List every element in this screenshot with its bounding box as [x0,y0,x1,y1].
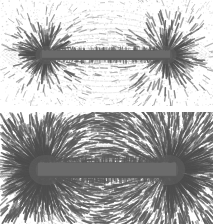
iron-filings-figure: Iron filings magnetic field patterns aro… [0,0,213,224]
weak-field-image [0,0,213,108]
strong-field-panel [0,112,213,224]
strong-field-image [0,112,213,224]
weak-field-panel [0,0,213,108]
